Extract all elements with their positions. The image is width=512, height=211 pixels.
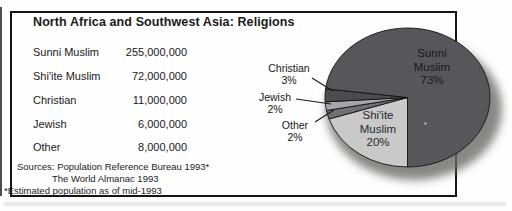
pie-label-shiite-muslim: Shi'ite Muslim 20%: [338, 109, 418, 150]
pie-label-line: Other: [260, 119, 330, 131]
pie-label-line: Muslim: [392, 61, 472, 75]
pie-label-line: 2%: [240, 103, 310, 115]
pie-label-line: Christian: [254, 62, 324, 74]
pie-label-line: 20%: [338, 136, 418, 150]
pie-label-line: 2%: [260, 131, 330, 143]
pie-label-line: Jewish: [240, 91, 310, 103]
figure-canvas: North Africa and Southwest Asia: Religio…: [0, 0, 512, 211]
pie-label-line: 3%: [254, 74, 324, 86]
pie-callout-other: Other 2%: [260, 119, 330, 143]
scan-speck: [424, 122, 426, 124]
pie-label-sunni-muslim: Sunni Muslim 73%: [392, 47, 472, 88]
pie-callout-jewish: Jewish 2%: [240, 91, 310, 115]
scan-shadow-band: [4, 202, 506, 206]
pie-label-line: Muslim: [338, 123, 418, 137]
pie-label-line: Sunni: [392, 47, 472, 61]
pie-callout-christian: Christian 3%: [254, 62, 324, 86]
pie-label-line: Shi'ite: [338, 109, 418, 123]
pie-label-line: 73%: [392, 74, 472, 88]
